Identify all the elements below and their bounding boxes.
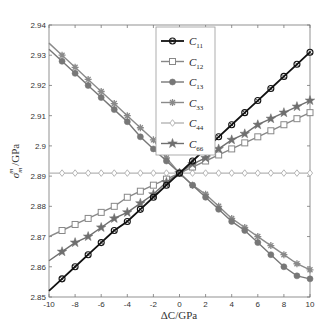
x-tick-label: 6 [256, 300, 261, 309]
x-tick-label: -2 [150, 300, 158, 309]
legend: C11C12C13C33C44C66 [156, 27, 215, 155]
x-tick-label: 8 [282, 300, 287, 309]
x-tick-label: -6 [98, 300, 106, 309]
y-tick-label: 2.91 [30, 112, 46, 121]
y-tick-label: 2.86 [30, 263, 46, 272]
x-tick-label: 4 [229, 300, 234, 309]
y-tick-label: 2.94 [30, 21, 46, 30]
y-tick-label: 2.87 [30, 233, 46, 242]
x-tick-label: -10 [43, 300, 55, 309]
legend-box [156, 27, 215, 155]
x-tick-label: -8 [72, 300, 80, 309]
x-tick-label: 0 [177, 300, 182, 309]
x-axis-title: ΔC/GPa [161, 309, 198, 321]
svg-text:σmm /GPa: σmm /GPa [7, 144, 24, 178]
y-tick-label: 2.89 [30, 172, 46, 181]
line-chart: 2.852.862.872.882.892.92.912.922.932.94 … [0, 0, 331, 334]
x-tick-label: 2 [203, 300, 208, 309]
y-tick-label: 2.92 [30, 81, 46, 90]
x-tick-label: 10 [306, 300, 315, 309]
y-tick-label: 2.93 [30, 51, 46, 60]
y-axis-title: σmm /GPa [7, 144, 24, 178]
y-tick-label: 2.88 [30, 202, 46, 211]
x-tick-label: -4 [124, 300, 132, 309]
y-tick-label: 2.9 [35, 142, 47, 151]
